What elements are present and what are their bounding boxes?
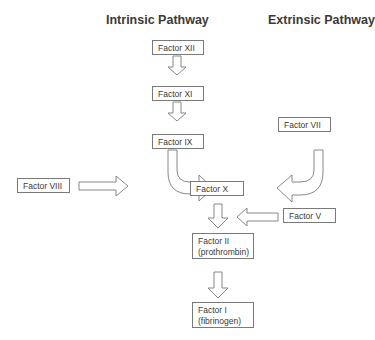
node-factor-viii: Factor VIII	[17, 178, 70, 193]
node-factor-xii: Factor XII	[152, 40, 204, 55]
node-sublabel: (prothrombin)	[198, 247, 248, 258]
node-factor-v: Factor V	[283, 208, 336, 223]
arrow-down-icon	[208, 272, 228, 298]
curved-arrow-icon	[277, 150, 323, 202]
node-factor-x: Factor X	[190, 181, 244, 196]
node-label: Factor II	[198, 236, 248, 247]
arrow-right-icon	[79, 176, 128, 196]
node-label: Factor V	[289, 211, 321, 221]
arrow-left-icon	[237, 208, 278, 226]
node-factor-i: Factor I (fibrinogen)	[192, 302, 254, 328]
node-factor-xi: Factor XI	[152, 86, 204, 101]
node-factor-ii: Factor II (prothrombin)	[192, 233, 254, 259]
node-label: Factor XI	[158, 89, 192, 99]
node-label: Factor XII	[158, 43, 195, 53]
node-label: Factor X	[196, 184, 228, 194]
node-label: Factor VIII	[23, 181, 62, 191]
node-factor-ix: Factor IX	[152, 134, 204, 149]
node-label: Factor IX	[158, 137, 192, 147]
node-label: Factor I	[198, 305, 248, 316]
node-factor-vii: Factor VII	[278, 117, 331, 132]
node-label: Factor VII	[284, 120, 321, 130]
node-sublabel: (fibrinogen)	[198, 316, 248, 327]
arrow-down-icon	[168, 102, 186, 121]
arrow-down-icon	[168, 56, 186, 75]
arrow-down-icon	[208, 204, 228, 228]
